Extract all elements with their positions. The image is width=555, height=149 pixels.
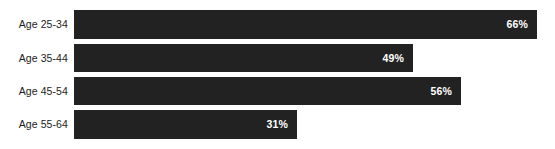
horizontal-bar-chart: Age 25-34 66% Age 35-44 49% Age 45-54 56… xyxy=(0,0,555,149)
bar-track: 56% xyxy=(74,77,555,105)
category-label: Age 25-34 xyxy=(0,19,74,30)
bar-value-label: 31% xyxy=(266,119,297,130)
bar-value-label: 66% xyxy=(506,19,537,30)
category-label: Age 45-54 xyxy=(0,86,74,97)
bar[interactable]: 49% xyxy=(74,44,413,72)
bar[interactable]: 31% xyxy=(74,110,297,139)
bar-track: 49% xyxy=(74,44,555,72)
category-label: Age 55-64 xyxy=(0,119,74,130)
chart-row: Age 45-54 56% xyxy=(0,77,555,105)
chart-row: Age 55-64 31% xyxy=(0,110,555,139)
bar-value-label: 56% xyxy=(430,86,461,97)
bar[interactable]: 66% xyxy=(74,10,537,39)
chart-row: Age 25-34 66% xyxy=(0,10,555,39)
bar[interactable]: 56% xyxy=(74,77,461,105)
category-label: Age 35-44 xyxy=(0,53,74,64)
bar-track: 31% xyxy=(74,110,555,139)
chart-row: Age 35-44 49% xyxy=(0,44,555,72)
bar-track: 66% xyxy=(74,10,555,39)
bar-value-label: 49% xyxy=(382,53,413,64)
